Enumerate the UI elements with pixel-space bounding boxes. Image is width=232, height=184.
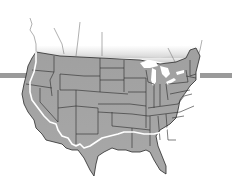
left-side-bar bbox=[0, 73, 28, 78]
canada-fade bbox=[36, 30, 200, 58]
map-svg bbox=[0, 0, 232, 184]
us-map bbox=[0, 0, 232, 184]
right-side-bar bbox=[200, 73, 232, 78]
